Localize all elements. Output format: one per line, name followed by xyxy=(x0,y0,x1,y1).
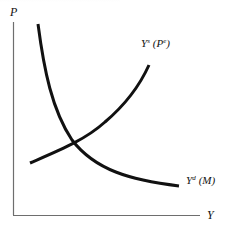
supply-label-arg-close: ) xyxy=(165,37,170,50)
supply-demand-diagram: P Y Ys(Pe) Yd(M) xyxy=(0,0,227,227)
demand-curve-label: Yd(M) xyxy=(186,174,215,187)
x-axis-label: Y xyxy=(207,208,215,222)
supply-label-sup: s xyxy=(147,37,150,45)
demand-label-sup: d xyxy=(192,174,196,182)
supply-curve-label: Ys(Pe) xyxy=(141,37,170,50)
y-axis-label: P xyxy=(9,5,18,19)
supply-label-arg: (P xyxy=(153,37,164,50)
demand-label-arg: (M) xyxy=(199,174,216,187)
